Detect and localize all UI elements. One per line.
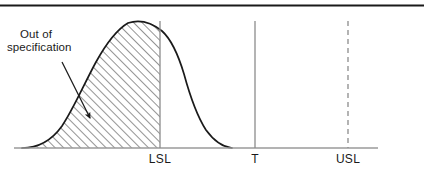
axis-label-target: T bbox=[251, 152, 259, 166]
out-of-specification-label-line2: specification bbox=[7, 41, 72, 55]
process-capability-figure: Out of specification LSL T USL bbox=[0, 0, 424, 178]
figure-canvas bbox=[0, 0, 424, 178]
axis-label-usl: USL bbox=[336, 152, 360, 166]
axis-label-lsl: LSL bbox=[149, 152, 171, 166]
out-of-specification-label-line1: Out of bbox=[20, 28, 52, 42]
